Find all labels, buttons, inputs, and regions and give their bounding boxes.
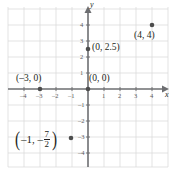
fraction-numerator: 7 [44,130,51,139]
fraction-denominator: 2 [44,140,51,149]
ytick-label-2: 2 [80,54,83,61]
xtick-label-2: 2 [118,93,121,100]
ytick-label-3: 3 [80,38,83,45]
xtick-label-neg4: –4 [20,93,27,100]
data-point-0-2p5 [86,47,91,52]
point-label-neg1-neg7over2: ( –1, – 7 2 ) [14,130,58,149]
xtick-label-neg2: –2 [52,93,59,100]
point-label-4-4: (4, 4) [134,31,155,41]
data-point-4-4 [150,23,155,28]
y-axis [85,6,92,167]
ytick-label-neg2: –2 [78,118,85,125]
open-paren: ( [15,131,20,148]
xtick-label-1: 1 [102,93,105,100]
coordinate-plane-figure: x y –4 –3 –2 –1 1 2 3 4 4 3 2 1 –1 –2 –3… [0,0,173,172]
ytick-label-neg3: –3 [78,134,85,141]
xtick-label-neg3: –3 [36,93,43,100]
ytick-label-4: 4 [80,22,83,29]
frac-label-inner: –1, – 7 2 [21,130,51,149]
xtick-label-neg1: –1 [68,93,75,100]
frac-label-first-part: –1, – [21,134,43,145]
ytick-label-1: 1 [80,70,83,77]
xtick-label-4: 4 [150,93,153,100]
point-label-neg3-0: (–3, 0) [16,74,41,84]
ytick-label-neg4: –4 [78,150,85,157]
point-label-0-2p5: (0, 2.5) [92,43,120,53]
ytick-label-neg1: –1 [78,102,85,109]
close-paren: ) [51,131,56,148]
point-label-0-0: (0, 0) [89,74,110,84]
fraction-seven-halves: 7 2 [44,130,51,149]
data-point-0-0 [86,87,91,92]
data-point-neg1-neg3p5 [69,136,74,141]
y-axis-label: y [90,1,94,9]
x-axis-label: x [165,91,169,99]
xtick-label-3: 3 [134,93,137,100]
data-point-neg3-0 [38,87,43,92]
